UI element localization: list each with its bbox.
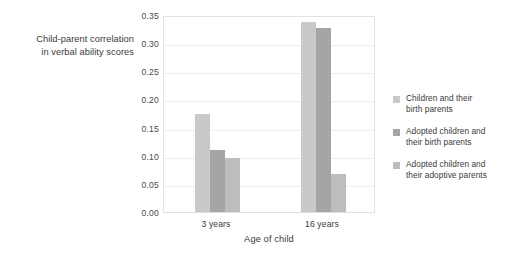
legend-item-label-line: Children and their xyxy=(406,93,472,104)
bar xyxy=(195,114,210,213)
x-axis-tick-labels: 3 years16 years xyxy=(163,219,375,233)
legend-item-label: Adopted children andtheir adoptive paren… xyxy=(406,159,487,180)
legend-item-label-line: birth parents xyxy=(406,104,472,115)
y-axis-tick-label: 0.05 xyxy=(126,180,159,190)
plot-area xyxy=(163,16,375,213)
bar xyxy=(331,174,346,212)
legend-item: Adopted children andtheir birth parents xyxy=(393,126,523,147)
x-axis-tick-label: 3 years xyxy=(202,219,231,229)
y-axis-tick-label: 0.20 xyxy=(126,95,159,105)
legend-item-label-line: their adoptive parents xyxy=(406,170,487,181)
legend-color-swatch xyxy=(393,129,400,136)
bar xyxy=(225,158,240,212)
legend-item-label: Children and theirbirth parents xyxy=(406,93,472,114)
legend-item-label-line: Adopted children and xyxy=(406,159,487,170)
bar-groups xyxy=(164,17,374,212)
legend-item-label-line: Adopted children and xyxy=(406,126,485,137)
y-axis-tick-label: 0.30 xyxy=(126,39,159,49)
y-axis-tick-label: 0.10 xyxy=(126,152,159,162)
y-axis-title-line-1: Child-parent correlation xyxy=(8,33,134,46)
y-axis-title: Child-parent correlation in verbal abili… xyxy=(8,33,134,58)
bar xyxy=(316,28,331,212)
y-axis-tick-label: 0.15 xyxy=(126,124,159,134)
y-axis-tick-label: 0.35 xyxy=(126,11,159,21)
y-axis-tick-label: 0.00 xyxy=(126,208,159,218)
y-axis-tick-labels: 0.350.300.250.200.150.100.050.00 xyxy=(126,0,159,253)
bar xyxy=(301,22,316,212)
legend-color-swatch xyxy=(393,162,400,169)
legend-color-swatch xyxy=(393,96,400,103)
legend-item: Adopted children andtheir adoptive paren… xyxy=(393,159,523,180)
x-axis-title: Age of child xyxy=(163,234,375,244)
bar-chart-figure: Child-parent correlation in verbal abili… xyxy=(0,0,526,253)
y-axis-title-line-2: in verbal ability scores xyxy=(8,46,134,59)
chart-legend: Children and theirbirth parentsAdopted c… xyxy=(393,93,523,192)
legend-item: Children and theirbirth parents xyxy=(393,93,523,114)
bar xyxy=(210,150,225,212)
legend-item-label-line: their birth parents xyxy=(406,137,485,148)
y-axis-tick-label: 0.25 xyxy=(126,67,159,77)
legend-item-label: Adopted children andtheir birth parents xyxy=(406,126,485,147)
x-axis-tick-label: 16 years xyxy=(305,219,339,229)
